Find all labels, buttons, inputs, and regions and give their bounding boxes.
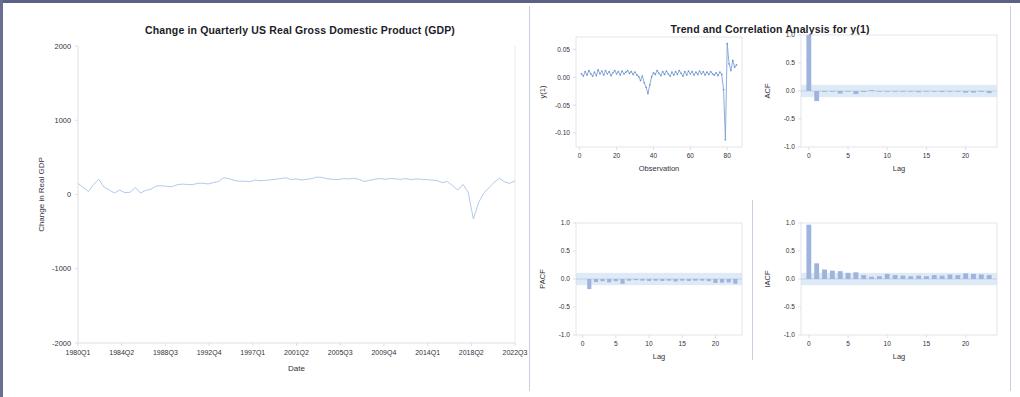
acf-y-tick-label: 1.0 — [786, 31, 795, 38]
iacf-x-tick-label: 20 — [962, 340, 970, 347]
gdp-x-tick-label: 2005Q3 — [328, 349, 353, 357]
y1-x-tick-label: 40 — [650, 152, 658, 159]
acf-bar — [877, 91, 882, 92]
gdp-plot-canvas: 200010000-1000-20001980Q11984Q21988Q3199… — [0, 0, 529, 397]
pacf-bar — [680, 279, 684, 281]
iacf-bar — [948, 275, 953, 279]
iacf-bar — [908, 276, 913, 279]
y1-data-point — [728, 63, 730, 65]
acf-bar — [861, 91, 866, 92]
pacf-y-tick-label: 1.0 — [561, 219, 570, 226]
pacf-bar — [674, 279, 678, 282]
acf-y-axis-label: ACF — [763, 83, 772, 98]
acf-bar — [916, 91, 921, 92]
iacf-bar — [877, 276, 882, 279]
iacf-bar — [971, 274, 976, 279]
pacf-plot-canvas: 1.00.50.0-0.5-1.005101520LagPACF — [529, 200, 753, 397]
y1-x-axis-label: Observation — [639, 164, 679, 173]
pacf-bar — [634, 279, 638, 280]
acf-bar — [806, 35, 811, 91]
iacf-bar — [900, 276, 905, 279]
iacf-bar — [955, 275, 960, 279]
pacf-bar — [707, 279, 711, 281]
y1-data-point — [675, 71, 677, 73]
y1-data-point — [590, 73, 592, 75]
iacf-chart: 1.00.50.0-0.5-1.005101520LagIACF — [753, 200, 1010, 397]
gdp-y-tick-label: -2000 — [52, 339, 71, 348]
acf-bar — [908, 91, 913, 92]
panel-divider-right — [1010, 6, 1011, 391]
y1-data-point — [623, 73, 625, 75]
pacf-x-tick-label: 15 — [679, 340, 687, 347]
y1-y-tick-label: 0.00 — [557, 74, 570, 81]
gdp-x-tick-label: 2001Q2 — [284, 349, 309, 357]
y1-data-point — [656, 70, 658, 72]
y1-data-point — [583, 75, 585, 77]
acf-x-tick-label: 5 — [846, 152, 850, 159]
iacf-bar — [932, 275, 937, 279]
y1-data-point — [603, 74, 605, 76]
y1-data-point — [601, 70, 603, 72]
acf-bar — [853, 91, 858, 94]
iacf-bar — [861, 275, 866, 279]
y1-data-point — [717, 75, 719, 77]
iacf-y-tick-label: -0.5 — [784, 303, 796, 310]
iacf-y-tick-label: 0.5 — [786, 247, 795, 254]
iacf-bar — [963, 273, 968, 279]
pacf-bar — [693, 279, 697, 281]
acf-bar — [940, 91, 945, 92]
acf-y-tick-label: 0.0 — [786, 87, 795, 94]
y1-data-point — [653, 72, 655, 74]
y1-data-point — [666, 70, 668, 72]
iacf-bar — [924, 276, 929, 279]
y1-data-point — [638, 76, 640, 78]
y1-data-point — [625, 71, 627, 73]
y1-data-point — [677, 74, 679, 76]
y1-data-point — [610, 75, 612, 77]
iacf-bar — [940, 276, 945, 279]
iacf-x-tick-label: 5 — [846, 340, 850, 347]
y1-x-tick-label: 60 — [687, 152, 695, 159]
acf-bar — [830, 91, 835, 92]
gdp-y-tick-label: 1000 — [55, 116, 71, 125]
iacf-bar — [822, 269, 827, 279]
iacf-x-tick-label: 15 — [923, 340, 931, 347]
pacf-bar — [713, 279, 717, 283]
y1-data-point — [704, 74, 706, 76]
acf-x-tick-label: 10 — [884, 152, 892, 159]
y1-data-point — [618, 71, 620, 73]
y1-data-point — [658, 72, 660, 74]
y1-data-point — [614, 70, 616, 72]
iacf-bar — [853, 272, 858, 279]
pacf-x-axis-label: Lag — [653, 352, 666, 361]
gdp-x-axis-label: Date — [288, 364, 305, 373]
acf-plot-canvas: 1.00.50.0-0.5-1.005101520LagACF — [753, 0, 1010, 200]
y1-plot-canvas: 0.050.00-0.05-0.10020406080Observationy(… — [529, 0, 753, 200]
y1-x-tick-label: 0 — [578, 152, 582, 159]
y1-data-point — [712, 73, 714, 75]
iacf-bar — [846, 273, 851, 279]
y1-data-point — [649, 84, 651, 86]
acf-bar — [814, 91, 819, 101]
pacf-x-tick-label: 10 — [645, 340, 653, 347]
iacf-bar — [838, 271, 843, 279]
y1-data-point — [629, 72, 631, 74]
pacf-bar — [654, 279, 658, 281]
pacf-bar — [720, 279, 724, 283]
gdp-line-chart: 200010000-1000-20001980Q11984Q21988Q3199… — [0, 0, 529, 397]
acf-bar — [971, 91, 976, 93]
pacf-bar — [727, 279, 731, 282]
y1-data-point — [621, 70, 623, 72]
gdp-series-line — [78, 177, 515, 219]
pacf-bar — [614, 279, 618, 281]
iacf-y-tick-label: 1.0 — [786, 219, 795, 226]
y1-data-point — [597, 69, 599, 71]
acf-y-tick-label: 0.5 — [786, 59, 795, 66]
iacf-plot-canvas: 1.00.50.0-0.5-1.005101520LagIACF — [753, 200, 1010, 397]
y1-data-point — [688, 70, 690, 72]
gdp-y-tick-label: 2000 — [55, 42, 71, 51]
screenshot-root: Change in Quarterly US Real Gross Domest… — [0, 0, 1020, 397]
y1-data-point — [640, 80, 642, 82]
y1-data-point — [684, 71, 686, 73]
y1-data-point — [680, 72, 682, 74]
